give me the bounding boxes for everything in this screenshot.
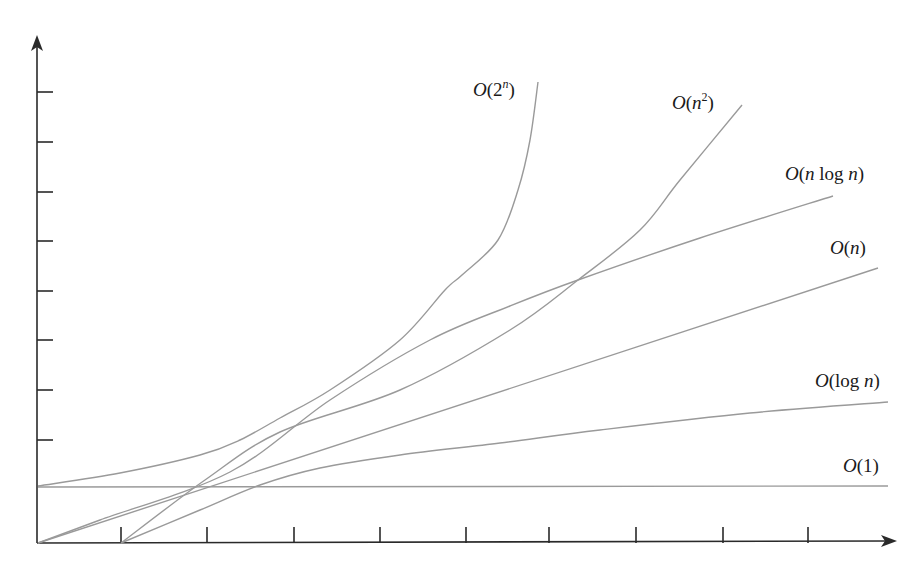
complexity-curves xyxy=(38,82,888,543)
curve-quadratic xyxy=(121,105,742,543)
y-axis-ticks xyxy=(37,92,53,440)
curve-exponential xyxy=(38,82,538,486)
curve-logarithmic xyxy=(121,402,888,543)
label-quadratic: O(n2) xyxy=(672,90,714,114)
x-axis xyxy=(37,541,889,543)
complexity-chart: O(2n) O(n2) O(n log n) O(n) O(log n) O(1… xyxy=(0,0,914,574)
label-linear: O(n) xyxy=(830,237,866,259)
label-linearithmic: O(n log n) xyxy=(785,163,864,185)
label-exponential: O(2n) xyxy=(473,77,515,101)
x-axis-ticks xyxy=(121,527,808,543)
curve-labels: O(2n) O(n2) O(n log n) O(n) O(log n) O(1… xyxy=(473,77,880,477)
curve-linear xyxy=(38,268,878,543)
curve-constant xyxy=(38,486,888,487)
curve-linearithmic xyxy=(38,196,833,543)
label-logarithmic: O(log n) xyxy=(815,370,880,392)
axes xyxy=(31,35,897,547)
label-constant: O(1) xyxy=(843,455,879,477)
